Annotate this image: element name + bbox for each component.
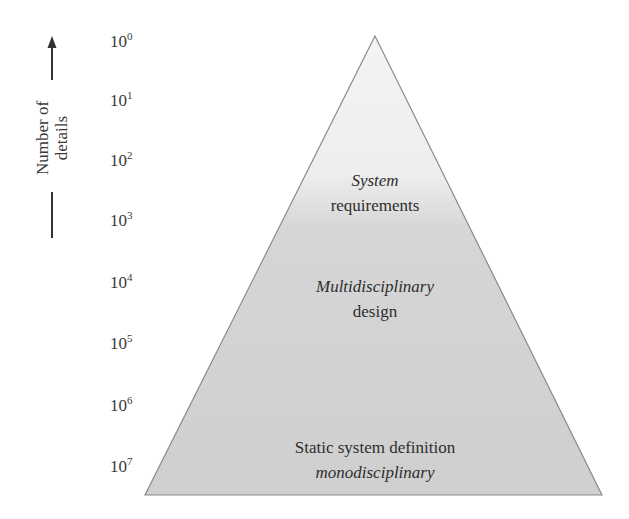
level-static-system-definition: Static system definition monodisciplinar… bbox=[295, 435, 456, 485]
axis-label-line2: details bbox=[52, 101, 71, 175]
arrow-up-icon bbox=[48, 36, 57, 80]
level-static-system-definition-line1: Static system definition bbox=[295, 435, 456, 460]
axis-label-line1: Number of bbox=[33, 101, 52, 175]
tick-label-5: 105 bbox=[110, 335, 133, 352]
tick-label-6: 106 bbox=[110, 397, 133, 414]
level-multidisciplinary-design-line1: Multidisciplinary bbox=[316, 274, 434, 299]
tick-label-4: 104 bbox=[110, 274, 133, 291]
tick-label-0: 100 bbox=[110, 33, 133, 50]
level-static-system-definition-line2: monodisciplinary bbox=[295, 460, 456, 485]
level-system-requirements: System requirements bbox=[331, 168, 420, 218]
level-system-requirements-line1: System bbox=[331, 168, 420, 193]
axis-label: Number of details bbox=[33, 101, 71, 175]
tick-label-7: 107 bbox=[110, 458, 133, 475]
level-system-requirements-line2: requirements bbox=[331, 193, 420, 218]
tick-label-1: 101 bbox=[110, 92, 133, 109]
tick-label-2: 102 bbox=[110, 152, 133, 169]
level-multidisciplinary-design-line2: design bbox=[316, 299, 434, 324]
tick-label-3: 103 bbox=[110, 212, 133, 229]
pyramid-diagram: Number of details 100 101 102 103 104 10… bbox=[0, 0, 629, 519]
pyramid-triangle bbox=[145, 36, 602, 495]
level-multidisciplinary-design: Multidisciplinary design bbox=[316, 274, 434, 324]
